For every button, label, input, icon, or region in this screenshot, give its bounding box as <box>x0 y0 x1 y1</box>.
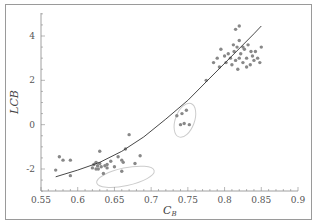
x-axis-label: CB <box>163 204 177 218</box>
data-point <box>133 162 136 165</box>
data-point <box>230 63 233 66</box>
data-point <box>116 155 119 158</box>
x-tick-label: 0.65 <box>104 195 124 205</box>
y-axis-label: LCB <box>8 90 21 115</box>
data-point <box>180 112 183 115</box>
y-tick-label: -2 <box>26 164 35 174</box>
data-point <box>245 65 248 68</box>
data-point <box>69 158 72 161</box>
data-point <box>249 50 252 53</box>
data-point <box>175 114 178 117</box>
data-point <box>227 52 230 55</box>
data-point <box>54 168 57 171</box>
data-point <box>235 45 238 48</box>
scatter-chart: 0.550.60.650.70.750.80.850.9 420-2 CB LC… <box>0 0 314 224</box>
data-point <box>58 155 61 158</box>
y-tick-label: 0 <box>29 120 35 130</box>
data-point <box>179 123 182 126</box>
data-point <box>246 43 249 46</box>
x-tick-label: 0.85 <box>251 195 271 205</box>
y-tick-label: 4 <box>29 31 35 41</box>
highlight-ellipse <box>170 100 200 140</box>
fit-curve <box>56 26 262 177</box>
data-point <box>120 170 123 173</box>
data-point <box>249 63 252 66</box>
data-point <box>69 174 72 177</box>
data-point <box>127 133 130 136</box>
x-tick-label: 0.75 <box>178 195 198 205</box>
data-point <box>256 56 259 59</box>
data-point <box>98 150 101 153</box>
x-tick-label: 0.8 <box>217 195 232 205</box>
data-point <box>219 48 222 51</box>
data-point <box>122 161 125 164</box>
data-point <box>61 158 64 161</box>
x-axis-ticks: 0.550.60.650.70.750.80.850.9 <box>31 187 305 205</box>
data-point <box>216 56 219 59</box>
data-point <box>188 123 191 126</box>
y-tick-label: 2 <box>29 75 35 85</box>
data-point <box>238 24 241 27</box>
data-point <box>185 109 188 112</box>
data-point <box>105 166 108 169</box>
data-point <box>236 68 239 71</box>
x-tick-label: 0.7 <box>144 195 159 205</box>
data-point <box>212 61 215 64</box>
data-point <box>251 54 254 57</box>
data-point <box>102 172 105 175</box>
data-point <box>241 61 244 64</box>
x-tick-label: 0.6 <box>71 195 86 205</box>
data-point <box>252 59 255 62</box>
data-point <box>238 39 241 42</box>
data-point <box>260 45 263 48</box>
data-points <box>54 24 263 177</box>
data-point <box>91 166 94 169</box>
highlight-ellipses <box>95 100 200 191</box>
data-point <box>234 28 237 31</box>
data-point <box>113 165 116 168</box>
data-point <box>234 59 237 62</box>
data-point <box>245 56 248 59</box>
x-tick-label: 0.55 <box>31 195 51 205</box>
data-point <box>238 56 241 59</box>
data-point <box>138 154 141 157</box>
data-point <box>254 50 257 53</box>
data-point <box>105 163 108 166</box>
data-point <box>232 43 235 46</box>
data-point <box>109 160 112 163</box>
data-point <box>182 122 185 125</box>
data-point <box>223 54 226 57</box>
data-point <box>239 52 242 55</box>
y-axis-ticks: 420-2 <box>26 14 45 191</box>
data-point <box>100 165 103 168</box>
x-tick-label: 0.9 <box>291 195 306 205</box>
data-point <box>258 61 261 64</box>
data-point <box>94 167 97 170</box>
